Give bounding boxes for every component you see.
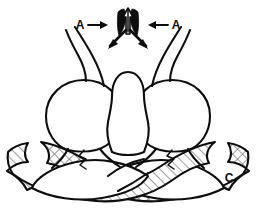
label-a-right-text: A [172, 18, 181, 32]
central-column-body [107, 72, 149, 155]
label-c-text: C [225, 171, 234, 185]
central-column [107, 72, 149, 155]
label-a-left-text: A [76, 18, 85, 32]
anatomical-diagram: A A C [0, 0, 256, 221]
figure-root: A A C [0, 0, 256, 221]
